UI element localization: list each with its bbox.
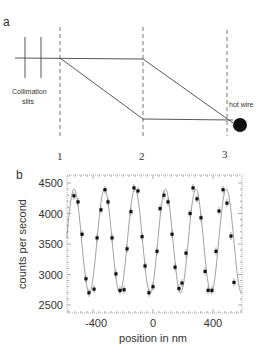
data-point [143,264,146,267]
beam-path-upper [15,58,233,123]
x-axis-tick-labels: -400 0 400 [85,317,222,329]
data-point [225,202,228,205]
data-point [125,247,128,250]
data-point [177,287,180,290]
position-number-3: 3 [222,148,228,160]
y-tick-label: 3500 [39,238,63,250]
data-point [129,210,132,213]
panel-b-label: b [16,168,23,182]
data-point [203,270,206,273]
x-tick-label: 0 [150,317,156,329]
data-point [155,250,158,253]
data-point [132,186,135,189]
data-point [158,207,161,210]
data-point [106,200,109,203]
data-point [84,277,87,280]
data-point [166,200,169,203]
data-point [95,236,98,239]
y-tick-label: 3000 [39,269,63,281]
data-point [110,236,113,239]
data-point [92,288,95,291]
data-point [76,200,79,203]
data-point [147,291,150,294]
data-point [118,289,121,292]
data-point [180,281,183,284]
hot-wire-icon [233,118,247,132]
data-point [87,291,90,294]
figure: a Collimation slits hot wire 1 2 3 b 450… [0,0,271,356]
data-point [140,235,143,238]
data-point [221,188,224,191]
panel-a-label: a [3,15,10,29]
data-point [151,285,154,288]
data-point [170,233,173,236]
data-point [114,272,117,275]
data-point [72,194,75,197]
data-point [173,266,176,269]
hot-wire-label: hot wire [229,101,254,108]
position-number-1: 1 [57,150,63,162]
data-point [122,288,125,291]
data-point [210,289,213,292]
x-tick-label: 400 [204,317,222,329]
slits-label-line1: Collimation [12,88,47,95]
y-tick-label: 2500 [39,299,63,311]
data-point [199,216,202,219]
data-point [191,186,194,189]
x-tick-label: -400 [85,317,107,329]
data-point [195,197,198,200]
y-axis-tick-labels: 4500 4000 3500 3000 2500 [39,177,63,311]
data-point [136,189,139,192]
data-point [206,289,209,292]
data-point [232,281,235,284]
data-point [99,208,102,211]
panel-b: b 4500 4000 3500 3000 2500 -400 0 400 po… [16,168,242,344]
data-point [184,252,187,255]
slits-label-line2: slits [22,98,35,105]
position-number-2: 2 [139,150,145,162]
data-point [229,234,232,237]
axis-ticks [67,175,242,313]
y-tick-label: 4500 [39,177,63,189]
y-axis-label: counts per second [16,199,28,289]
data-point [217,209,220,212]
data-point [162,194,165,197]
data-point [188,212,191,215]
beam-path-lower [60,58,233,120]
y-tick-label: 4000 [39,208,63,220]
data-point [80,233,83,236]
panel-a: a Collimation slits hot wire 1 2 3 [3,15,254,162]
fit-curve [67,189,242,293]
plot-frame [67,175,242,313]
data-point [214,250,217,253]
data-point [103,188,106,191]
x-axis-label: position in nm [119,332,187,344]
